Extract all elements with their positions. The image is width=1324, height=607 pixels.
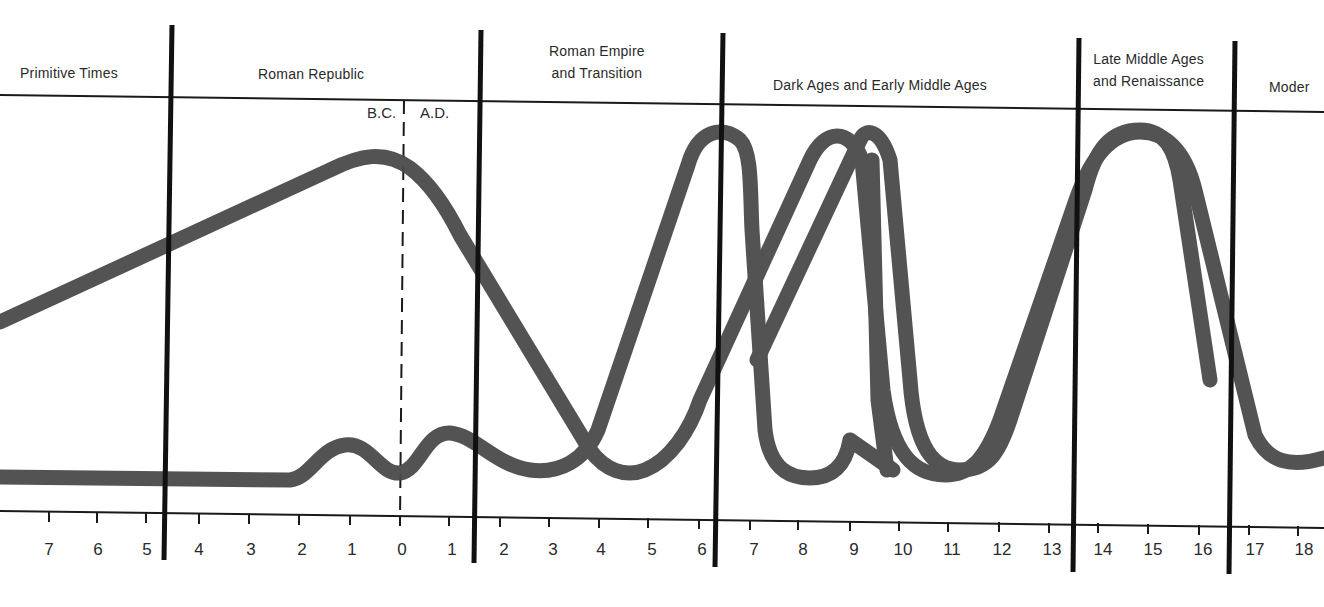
tick-label: 18 — [1289, 540, 1319, 560]
tick-label: 0 — [387, 540, 417, 560]
wave-middle — [872, 160, 887, 470]
tick-label: 16 — [1188, 540, 1218, 560]
tick-label: 1 — [437, 540, 467, 560]
tick-label: 4 — [586, 540, 616, 560]
tick-label: 17 — [1240, 540, 1270, 560]
era-label-roman-republic: Roman Republic — [258, 63, 364, 85]
tick-label: 1 — [337, 540, 367, 560]
tick-label: 7 — [739, 540, 769, 560]
era-label-dark-ages: Dark Ages and Early Middle Ages — [773, 74, 987, 96]
tick-label: 6 — [83, 540, 113, 560]
era-label-text: Roman Republic — [258, 63, 364, 85]
tick-label: 3 — [236, 540, 266, 560]
lower-curve-continued — [757, 130, 1210, 470]
divider-republic-empire — [474, 30, 481, 563]
bc-label: B.C. — [367, 104, 396, 121]
ad-label: A.D. — [420, 104, 449, 121]
era-label-primitive-times: Primitive Times — [20, 62, 118, 84]
era-label-text-line1: Roman Empire — [549, 40, 645, 62]
period-dividers — [164, 25, 1235, 574]
tick-label: 6 — [687, 540, 717, 560]
divider-dark-late — [1073, 38, 1079, 572]
tick-label: 4 — [184, 540, 214, 560]
era-label-late-middle-ages: Late Middle Ages and Renaissance — [1093, 48, 1204, 92]
upper-curve — [0, 132, 1324, 475]
tick-label: 3 — [538, 540, 568, 560]
tick-label: 5 — [132, 540, 162, 560]
tick-label: 7 — [34, 540, 64, 560]
divider-late-modern — [1229, 41, 1235, 574]
tick-label: 9 — [839, 540, 869, 560]
axis-ticks — [49, 512, 1298, 536]
tick-label: 13 — [1037, 540, 1067, 560]
tick-label: 8 — [788, 540, 818, 560]
lower-curve — [0, 132, 893, 480]
era-label-text-line2: and Renaissance — [1093, 70, 1204, 92]
era-label-roman-empire: Roman Empire and Transition — [549, 40, 645, 84]
tick-label: 11 — [937, 540, 967, 560]
divider-empire-dark — [715, 33, 723, 567]
tick-label: 10 — [888, 540, 918, 560]
era-label-text: Dark Ages and Early Middle Ages — [773, 74, 987, 96]
curves — [0, 130, 1324, 480]
era-label-text-line1: Late Middle Ages — [1093, 48, 1204, 70]
era-label-text: Primitive Times — [20, 62, 118, 84]
header-rule — [0, 95, 1324, 112]
era-label-modern: Moder — [1269, 76, 1310, 98]
tick-label: 15 — [1138, 540, 1168, 560]
era-label-text: Moder — [1269, 76, 1310, 98]
tick-label: 14 — [1088, 540, 1118, 560]
tick-label: 5 — [637, 540, 667, 560]
tick-label: 2 — [287, 540, 317, 560]
tick-label: 2 — [489, 540, 519, 560]
era-label-text-line2: and Transition — [549, 62, 645, 84]
tick-label: 12 — [987, 540, 1017, 560]
